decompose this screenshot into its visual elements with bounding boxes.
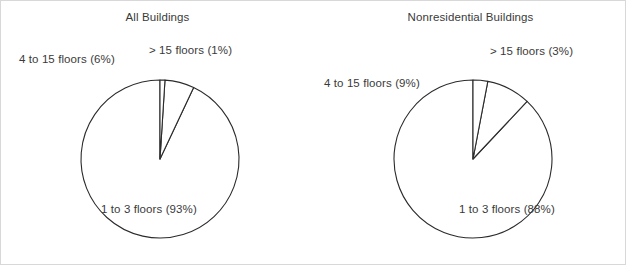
slice-label-4-to-15-floors: 4 to 15 floors (9%): [324, 77, 420, 89]
pie-chart-all-buildings: [1, 1, 314, 265]
pie-chart-nonresidential-buildings: [314, 1, 626, 265]
slice-label-over-15-floors: > 15 floors (3%): [490, 45, 573, 57]
slice-label-4-to-15-floors: 4 to 15 floors (6%): [19, 53, 115, 65]
figure-root: All Buildings 4 to 15 floors (6%) > 15 f…: [0, 0, 626, 265]
slice-label-over-15-floors: > 15 floors (1%): [149, 44, 232, 56]
chart-panel-nonresidential-buildings: Nonresidential Buildings 4 to 15 floors …: [314, 1, 626, 265]
chart-panel-all-buildings: All Buildings 4 to 15 floors (6%) > 15 f…: [1, 1, 314, 265]
slice-label-1-to-3-floors: 1 to 3 floors (88%): [459, 203, 555, 215]
slice-label-1-to-3-floors: 1 to 3 floors (93%): [101, 203, 197, 215]
